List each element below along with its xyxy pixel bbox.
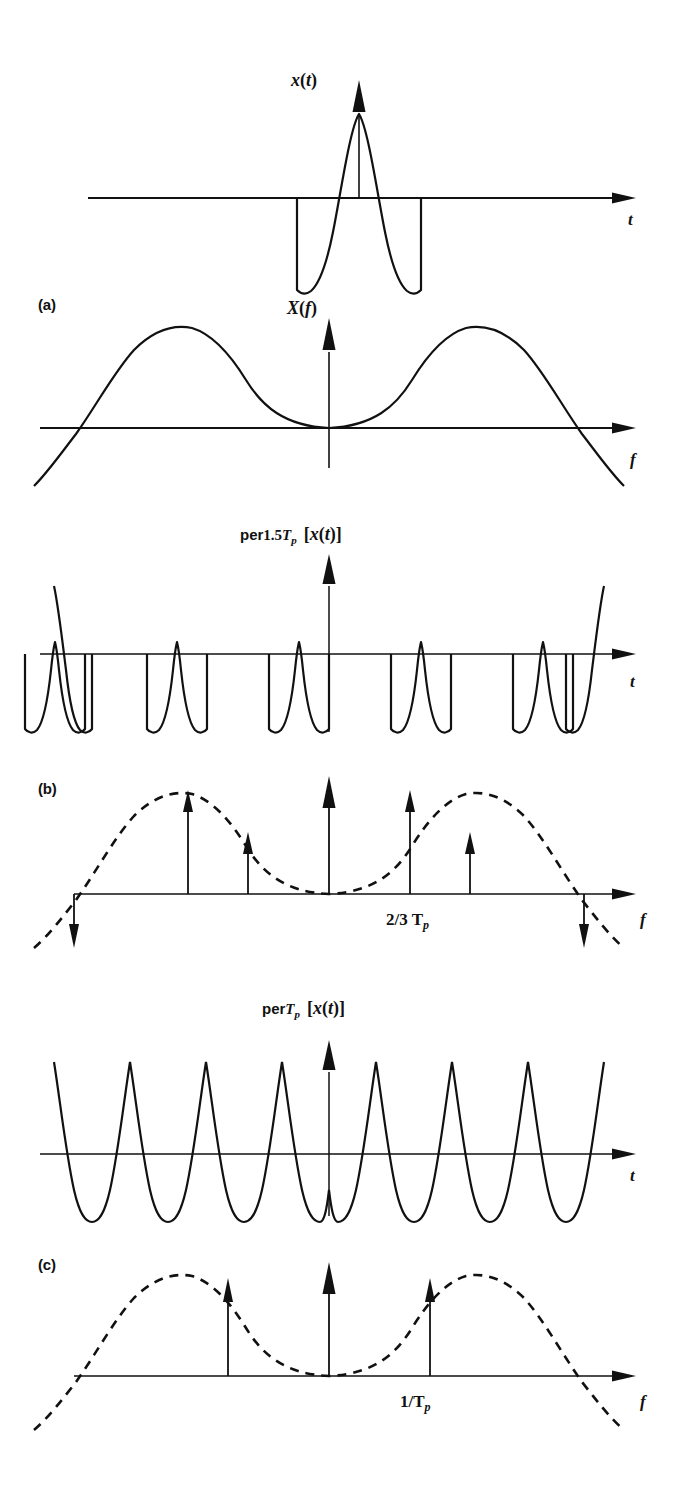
per-bracket: [x(t)] xyxy=(307,998,345,1018)
per-bracket: [x(t)] xyxy=(304,524,342,544)
impulse-arrowhead-origin xyxy=(323,776,336,808)
per-subscript: T xyxy=(285,1001,294,1017)
impulse-arrowhead-origin xyxy=(323,1262,336,1294)
plot-c-time xyxy=(0,1026,692,1226)
y-axis-arrowhead xyxy=(323,554,336,584)
y-axis-arrowhead xyxy=(323,318,336,350)
x-axis-arrowhead xyxy=(612,1371,636,1382)
plot-b-time xyxy=(0,552,692,752)
per-operator: per xyxy=(240,526,263,543)
per-operator: per xyxy=(262,1000,285,1017)
x-axis-arrowhead xyxy=(612,423,636,434)
impulse-arrowhead-negative-right xyxy=(579,924,589,948)
impulse-arrowhead xyxy=(243,832,253,854)
figure-root: (a) x(t) t X(f) f (b) per1.5Tp[x(t)] t xyxy=(0,0,692,1508)
per-subscript-sub: p xyxy=(291,534,297,546)
signal-label-per-1p5Tp: per1.5Tp[x(t)] xyxy=(240,524,342,545)
x-axis-arrowhead xyxy=(612,193,636,204)
waveform-per-1p5Tp xyxy=(25,586,604,733)
plot-a-freq xyxy=(0,300,692,490)
plot-c-freq xyxy=(0,1248,692,1438)
impulse-arrowhead xyxy=(223,1278,233,1302)
plot-b-freq xyxy=(0,762,692,962)
per-subscript: 1.5T xyxy=(263,527,291,543)
x-axis-arrowhead xyxy=(612,889,636,900)
impulse-arrowhead xyxy=(425,1278,435,1302)
impulse-arrowhead xyxy=(465,832,475,854)
y-axis-arrowhead xyxy=(323,1040,336,1070)
negative-impulses-group xyxy=(69,894,589,948)
x-axis-arrowhead xyxy=(612,1149,636,1160)
x-axis-arrowhead xyxy=(612,649,636,660)
impulse-arrowhead xyxy=(405,790,415,812)
signal-label-per-Tp: perTp[x(t)] xyxy=(262,998,345,1019)
y-axis-arrowhead xyxy=(353,80,366,112)
impulse-arrowhead-negative-left xyxy=(69,924,79,948)
plot-a-time xyxy=(0,72,692,302)
per-subscript-sub: p xyxy=(295,1008,301,1020)
